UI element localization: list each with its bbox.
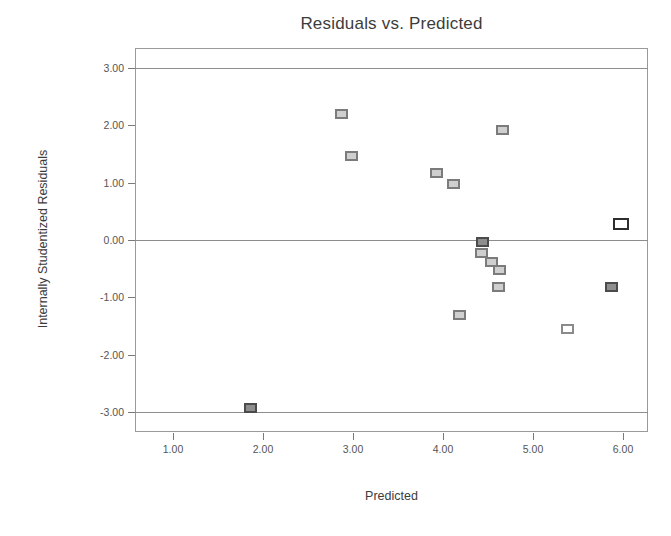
data-point [476,237,489,247]
y-tick-label: 2.00 [72,119,124,131]
y-tick-mark [128,240,135,241]
y-tick-mark [128,68,135,69]
x-tick-mark [173,433,174,440]
y-tick-label: -1.00 [72,291,124,303]
x-tick-mark [623,433,624,440]
data-point [613,218,629,230]
x-tick-label: 2.00 [238,443,288,457]
y-tick-label: -2.00 [72,349,124,361]
x-tick-label: 5.00 [508,443,558,457]
y-tick-label-text: 2.00 [80,119,124,131]
y-tick-label-text: -3.00 [80,406,124,418]
y-tick-label-text: 0.00 [80,234,124,246]
data-point [447,179,460,189]
reference-line--3 [135,412,648,413]
y-tick-label: -3.00 [72,406,124,418]
x-tick-mark [263,433,264,440]
y-tick-mark [128,297,135,298]
x-tick-mark [533,433,534,440]
data-point [493,265,506,275]
reference-line-0 [135,240,648,241]
x-tick-label: 4.00 [418,443,468,457]
x-axis-title: Predicted [135,489,648,503]
data-point [492,282,505,292]
x-tick-label-text: 4.00 [418,443,468,455]
x-tick-label-text: 1.00 [148,443,198,455]
y-tick-label-text: -1.00 [80,291,124,303]
data-point [345,151,358,161]
x-tick-label-text: 3.00 [328,443,378,455]
x-tick-label-text: 6.00 [598,443,648,455]
x-tick-label: 1.00 [148,443,198,457]
data-point [453,310,466,320]
x-tick-mark [443,433,444,440]
data-point [335,109,348,119]
data-point [605,282,618,292]
y-tick-mark [128,183,135,184]
data-point [561,324,574,334]
x-tick-label-text: 5.00 [508,443,558,455]
x-tick-label-text: 2.00 [238,443,288,455]
x-tick-label: 6.00 [598,443,648,457]
y-tick-label-text: 3.00 [80,62,124,74]
y-tick-label: 3.00 [72,62,124,74]
reference-line-3 [135,68,648,69]
chart-title: Residuals vs. Predicted [135,14,648,34]
y-tick-label: 0.00 [72,234,124,246]
data-point [496,125,509,135]
y-tick-mark [128,412,135,413]
data-point [430,168,443,178]
residuals-vs-predicted-chart: Residuals vs. Predicted Internally Stude… [0,0,671,536]
y-axis-title: Internally Studentized Residuals [36,89,50,389]
y-tick-label-text: -2.00 [80,349,124,361]
x-tick-label: 3.00 [328,443,378,457]
x-tick-mark [353,433,354,440]
y-tick-mark [128,355,135,356]
y-tick-mark [128,125,135,126]
y-tick-label: 1.00 [72,177,124,189]
y-tick-label-text: 1.00 [80,177,124,189]
data-point [244,403,257,413]
